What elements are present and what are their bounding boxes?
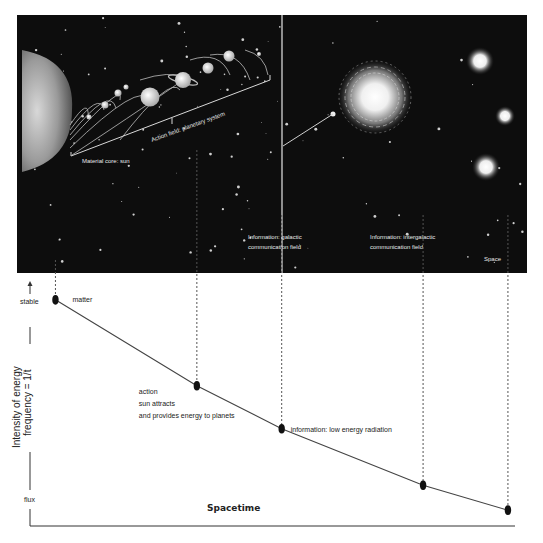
star <box>241 38 244 41</box>
data-point-information <box>278 424 284 434</box>
star <box>244 76 246 78</box>
star <box>270 151 272 153</box>
space-label: Space <box>484 256 502 262</box>
star <box>460 59 463 62</box>
star <box>188 157 190 159</box>
star <box>178 22 181 25</box>
distant-galaxy-1 <box>466 47 494 75</box>
planet-venus <box>102 102 109 109</box>
planet-uranus <box>203 63 214 74</box>
star <box>112 183 113 184</box>
galactic-field-label-line2: communication field <box>248 244 301 250</box>
star <box>99 249 101 251</box>
star <box>34 168 36 170</box>
star <box>244 258 245 259</box>
star <box>61 260 64 263</box>
star <box>472 84 473 85</box>
star <box>487 234 489 236</box>
star <box>132 213 134 215</box>
star <box>224 73 226 75</box>
star <box>231 156 233 158</box>
star <box>160 59 163 62</box>
star <box>332 42 333 43</box>
point-annotations: matteractionsun attractsand provides ene… <box>72 296 392 434</box>
star <box>186 55 189 58</box>
star <box>277 101 278 102</box>
star <box>494 262 495 263</box>
star <box>343 157 345 159</box>
star <box>142 148 144 150</box>
star <box>210 249 212 251</box>
star <box>184 32 185 33</box>
annotation-matter-0: matter <box>72 296 93 303</box>
star <box>241 84 242 85</box>
planet-neptune <box>224 51 235 62</box>
star <box>63 70 64 71</box>
star <box>261 122 262 123</box>
star <box>159 106 161 108</box>
star <box>471 161 472 162</box>
data-point-matter <box>52 295 58 305</box>
star <box>185 46 187 48</box>
star <box>128 165 130 167</box>
galactic-field-label-line1: Information: galactic <box>248 234 302 240</box>
star <box>266 133 267 134</box>
star <box>294 266 296 268</box>
planet-mercury <box>87 115 92 120</box>
intergalactic-field-label-line2: communication field <box>370 244 423 250</box>
star <box>189 251 191 253</box>
star <box>328 114 329 115</box>
star <box>35 49 37 51</box>
space-illustration-panel: Material core: sun Action field: planeta… <box>17 15 527 273</box>
star <box>176 173 177 174</box>
star <box>279 26 281 28</box>
y-axis-title-line1: Intensity of energy <box>11 366 22 448</box>
star <box>398 214 400 216</box>
star <box>437 127 440 130</box>
star <box>121 201 122 202</box>
star <box>109 104 111 106</box>
star <box>197 106 198 107</box>
star <box>519 183 521 185</box>
star <box>243 239 245 241</box>
star <box>61 54 62 55</box>
star <box>98 139 99 140</box>
star <box>373 215 376 218</box>
data-point-action <box>194 381 200 391</box>
star <box>314 128 317 131</box>
star <box>102 17 104 19</box>
star <box>377 21 378 22</box>
y-top-label: stable <box>20 298 39 305</box>
star <box>220 89 221 90</box>
star <box>257 76 259 78</box>
star <box>241 228 243 230</box>
star <box>521 231 523 233</box>
star <box>256 48 259 51</box>
star <box>222 208 224 210</box>
star <box>237 133 240 136</box>
annotation-action-0: action <box>139 388 158 395</box>
star <box>467 256 469 258</box>
planet-mars <box>124 85 129 90</box>
star <box>366 203 367 204</box>
planet-jupiter <box>141 88 160 107</box>
star <box>105 27 106 28</box>
planet-saturn <box>175 72 191 88</box>
star <box>303 140 304 141</box>
star <box>235 193 237 195</box>
star <box>249 208 250 209</box>
star <box>104 67 106 69</box>
star <box>200 71 202 73</box>
star <box>497 219 499 221</box>
y-axis-title-line2: frequency = 1/t <box>22 369 33 436</box>
distant-galaxy-2 <box>495 106 515 126</box>
star <box>247 200 249 202</box>
star <box>307 248 308 249</box>
annotation-action-1: sun attracts <box>139 400 176 407</box>
energy-spacetime-diagram: Material core: sun Action field: planeta… <box>0 0 543 543</box>
y-bottom-label: flux <box>24 496 35 503</box>
star <box>209 153 212 156</box>
star <box>169 217 170 218</box>
planet-pluto <box>257 52 261 56</box>
star <box>65 29 67 31</box>
